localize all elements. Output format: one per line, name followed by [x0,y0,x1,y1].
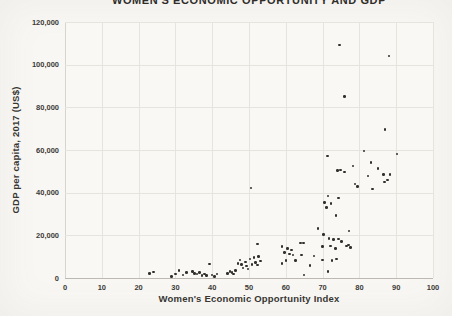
data-point [337,197,340,200]
data-point [326,155,329,158]
data-point [327,270,330,273]
data-point [334,247,337,250]
data-point [370,161,373,164]
data-point [256,264,259,267]
data-point [329,245,332,248]
data-point [245,265,248,268]
gridline-y-60000 [65,150,433,151]
data-point [239,259,242,262]
data-point [332,238,335,241]
data-point [339,169,342,172]
data-point [309,264,312,267]
data-point [388,55,391,58]
data-point [322,233,325,236]
x-tick-label-50: 50 [234,283,264,292]
data-point [396,153,399,156]
data-point [251,263,254,266]
data-point [244,261,247,264]
data-point [349,246,352,249]
data-point [174,273,177,276]
data-point [386,179,389,182]
data-point [281,245,284,248]
data-point [250,187,253,190]
data-point [300,254,303,257]
plot-area [65,22,433,278]
gridline-y-20000 [65,235,433,236]
data-point [348,230,351,233]
y-tick-label-100000: 100,000 [13,60,59,69]
data-point [285,259,288,262]
data-point [313,255,316,258]
data-point [317,227,320,230]
data-point [303,274,306,277]
data-point [343,171,346,174]
data-point [367,175,370,178]
gridline-x-100 [433,22,434,278]
data-point [335,258,338,261]
data-point [389,173,392,176]
data-point [288,253,291,256]
data-point [240,263,243,266]
x-tick-label-60: 60 [271,283,301,292]
y-tick-label-40000: 40,000 [13,188,59,197]
data-point [182,274,185,277]
data-point [325,206,328,209]
data-point [185,271,188,274]
data-point [259,260,262,263]
data-point [253,256,256,259]
data-point [383,181,386,184]
data-point [242,267,245,270]
x-tick-label-100: 100 [418,283,448,292]
data-point [257,255,260,258]
data-point [213,275,216,278]
x-tick-label-10: 10 [87,283,117,292]
data-point [178,269,181,272]
data-point [338,44,341,47]
data-point [170,275,173,278]
data-point [286,247,289,250]
data-point [237,262,240,265]
data-point [340,240,343,243]
data-point [371,188,374,191]
y-tick-label-80000: 80,000 [13,103,59,112]
y-tick-label-60000: 60,000 [13,146,59,155]
data-point [294,259,297,262]
data-point [352,165,355,168]
data-point [327,195,330,198]
data-point [208,263,211,266]
x-tick-label-90: 90 [381,283,411,292]
data-point [234,269,237,272]
data-point [232,273,235,276]
x-tick-label-30: 30 [160,283,190,292]
data-point [292,254,295,257]
y-tick-label-0: 0 [13,274,59,283]
x-tick-label-70: 70 [308,283,338,292]
data-point [330,202,333,205]
data-point [148,272,151,275]
data-point [328,237,331,240]
x-tick-label-40: 40 [197,283,227,292]
x-tick-label-0: 0 [50,283,80,292]
y-tick-label-120000: 120,000 [13,18,59,27]
gridline-y-0 [65,278,433,279]
data-point [281,262,284,265]
gridline-y-80000 [65,107,433,108]
data-point [382,173,385,176]
data-point [323,201,326,204]
data-point [152,271,155,274]
data-point [356,185,359,188]
x-tick-label-20: 20 [124,283,154,292]
chart-title: WOMEN'S ECONOMIC OPPORTUNITY AND GDP [65,0,433,6]
data-point [335,214,338,217]
data-point [377,167,380,170]
data-point [249,258,252,261]
x-tick-label-80: 80 [344,283,374,292]
data-point [343,95,346,98]
y-tick-label-20000: 20,000 [13,231,59,240]
data-point [384,128,387,131]
data-point [331,259,334,262]
gridline-y-40000 [65,193,433,194]
gridline-y-100000 [65,65,433,66]
data-point [283,251,286,254]
data-point [216,273,219,276]
